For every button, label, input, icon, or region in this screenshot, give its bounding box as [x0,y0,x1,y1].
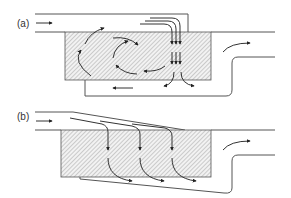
outlet-arrow [223,141,250,150]
panel-b: (b) [17,111,275,193]
flow-diagram: (a) (b) [0,0,291,198]
outlet-arrow [223,43,250,52]
panel-a: (a) [17,14,275,96]
panel-b-label: (b) [17,111,29,122]
panel-a-label: (a) [17,18,29,29]
chamber-b [61,130,211,177]
